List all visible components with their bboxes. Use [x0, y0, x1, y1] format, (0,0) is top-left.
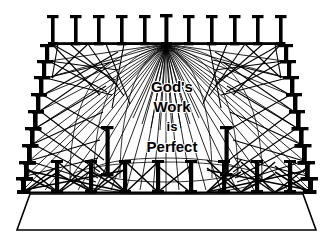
- structure-illustration: God's Work is Perfect: [0, 0, 333, 247]
- base-platform-face: [17, 194, 316, 230]
- inscription-line-1: God's: [151, 78, 193, 95]
- inscription-line-2: Work: [153, 98, 191, 115]
- artwork-canvas: God's Work is Perfect: [0, 0, 333, 247]
- inscription-line-3: is: [167, 119, 178, 134]
- inscription-line-4: Perfect: [147, 138, 198, 155]
- base-platform: [17, 194, 316, 230]
